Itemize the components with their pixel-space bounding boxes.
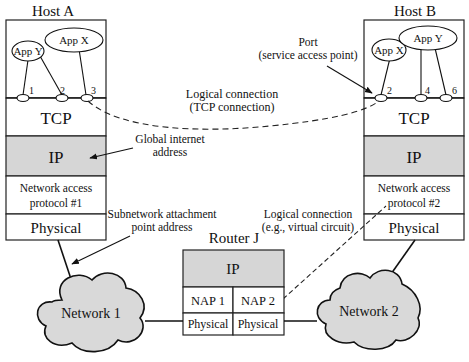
host-b-to-network2-link bbox=[391, 240, 415, 274]
host-b-port-6-label: 6 bbox=[452, 85, 457, 96]
host-a-port-3-label: 3 bbox=[91, 85, 96, 96]
host-b-ip-label: IP bbox=[406, 148, 421, 167]
host-a-app-y-label: App Y bbox=[13, 45, 42, 57]
host-b-port-2-label: 2 bbox=[387, 85, 392, 96]
host-b: Host B TCP IP Network access protocol #2… bbox=[364, 3, 464, 240]
subnet-address-annotation-line2: point address bbox=[131, 221, 193, 234]
host-a-to-network1-link bbox=[58, 240, 72, 282]
network-2-label: Network 2 bbox=[339, 304, 399, 319]
router-nap1-label: NAP 1 bbox=[191, 294, 225, 308]
vc-annotation-line1: Logical connection bbox=[264, 208, 353, 221]
tcp-ip-architecture-diagram: Host A TCP IP Network access protocol #1… bbox=[0, 0, 469, 362]
host-a: Host A TCP IP Network access protocol #1… bbox=[6, 3, 106, 240]
host-b-port-2 bbox=[375, 95, 387, 102]
host-a-nap-line1: Network access bbox=[20, 182, 93, 194]
host-b-port-6 bbox=[440, 95, 452, 102]
host-b-app-x-label: App X bbox=[374, 44, 404, 56]
host-b-title: Host B bbox=[394, 3, 436, 19]
port-annotation-line2: (service access point) bbox=[259, 49, 358, 62]
global-address-annotation-line2: address bbox=[153, 146, 188, 158]
host-a-port-1-label: 1 bbox=[29, 85, 34, 96]
subnet-address-annotation-line1: Subnetwork attachment bbox=[108, 208, 218, 220]
tcp-connection-label-line1: Logical connection bbox=[186, 87, 278, 101]
host-b-port-4-label: 4 bbox=[425, 85, 430, 96]
router-nap2-label: NAP 2 bbox=[241, 294, 275, 308]
network-1-label: Network 1 bbox=[61, 306, 121, 321]
host-a-nap-line2: protocol #1 bbox=[30, 197, 83, 210]
host-a-port-1 bbox=[17, 95, 29, 102]
global-address-annotation-line1: Global internet bbox=[135, 133, 205, 145]
host-b-nap-line2: protocol #2 bbox=[388, 197, 441, 210]
host-a-app-x-label: App X bbox=[59, 34, 89, 46]
host-a-port-2-label: 2 bbox=[60, 85, 65, 96]
tcp-connection-label-line2: (TCP connection) bbox=[189, 100, 274, 114]
vc-annotation-line2: (e.g., virtual circuit) bbox=[262, 221, 354, 234]
host-a-title: Host A bbox=[32, 3, 74, 19]
host-b-physical-label: Physical bbox=[389, 220, 440, 236]
host-a-ip-label: IP bbox=[48, 148, 63, 167]
host-b-tcp-label: TCP bbox=[398, 109, 429, 128]
host-b-app-y-label: App Y bbox=[413, 32, 442, 44]
router-j: Router J IP NAP 1 NAP 2 Physical Physica… bbox=[183, 230, 284, 335]
router-physical2-label: Physical bbox=[238, 317, 279, 331]
host-a-tcp-label: TCP bbox=[40, 109, 71, 128]
host-a-physical-label: Physical bbox=[31, 220, 82, 236]
host-b-nap-line1: Network access bbox=[378, 182, 451, 194]
router-physical1-label: Physical bbox=[188, 317, 229, 331]
router-title: Router J bbox=[209, 230, 260, 246]
port-annotation-line1: Port bbox=[298, 36, 318, 48]
router-ip-label: IP bbox=[226, 261, 239, 277]
